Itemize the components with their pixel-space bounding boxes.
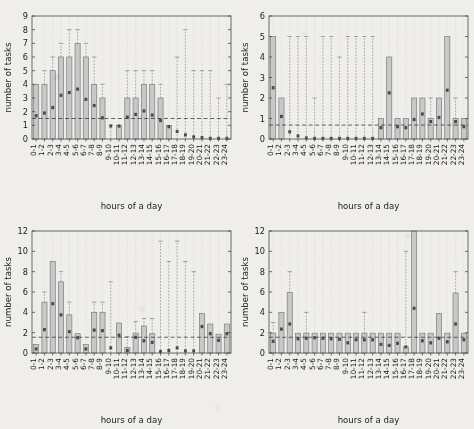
y-tick-label: 0: [260, 134, 265, 144]
x-axis-title: hours of a day: [338, 201, 400, 211]
chart-panel-top-right: 0123456number of tasks0-11-22-33-44-55-6…: [237, 0, 474, 215]
y-tick-label: 1: [260, 114, 265, 124]
y-tick-label: 3: [23, 93, 28, 103]
y-axis-title: number of tasks: [240, 42, 250, 112]
y-tick-label: 4: [260, 307, 265, 317]
x-tick-label: 23-24: [220, 358, 229, 380]
y-tick-label: 2: [260, 93, 265, 103]
y-tick-label: 5: [260, 32, 265, 42]
y-tick-label: 8: [260, 267, 265, 277]
y-tick-label: 0: [23, 134, 28, 144]
y-tick-label: 4: [23, 307, 28, 317]
y-tick-label: 4: [23, 79, 28, 89]
x-tick-label: 23-24: [457, 144, 466, 166]
chart-panel-bottom-left: 024681012number of tasks0-11-22-33-44-55…: [0, 215, 237, 429]
y-tick-label: 2: [23, 107, 28, 117]
y-tick-label: 8: [23, 267, 28, 277]
chart-panel-top-left: 0123456789number of tasks0-11-22-33-44-5…: [0, 0, 237, 215]
y-tick-label: 3: [260, 73, 265, 83]
y-tick-label: 8: [23, 25, 28, 35]
plot-area-panel-top-right: 0123456number of tasks0-11-22-33-44-55-6…: [237, 0, 474, 215]
y-tick-label: 2: [260, 328, 265, 338]
plot-area-panel-bottom-left: 024681012number of tasks0-11-22-33-44-55…: [0, 215, 237, 429]
y-axis-title: number of tasks: [3, 42, 13, 112]
y-tick-label: 10: [255, 246, 265, 256]
y-tick-label: 6: [23, 52, 28, 62]
x-tick-label: 23-24: [457, 358, 466, 380]
y-tick-label: 6: [23, 287, 28, 297]
y-tick-label: 7: [23, 38, 28, 48]
y-axis-title: number of tasks: [3, 257, 13, 327]
y-axis-title: number of tasks: [240, 257, 250, 327]
y-tick-label: 12: [18, 226, 28, 236]
y-tick-label: 0: [23, 348, 28, 358]
plot-area-panel-bottom-right: 024681012number of tasks0-11-22-33-44-55…: [237, 215, 474, 429]
y-tick-label: 6: [260, 11, 265, 21]
x-axis-title: hours of a day: [101, 415, 163, 425]
y-tick-label: 10: [18, 246, 28, 256]
chart-panel-bottom-right: 024681012number of tasks0-11-22-33-44-55…: [237, 215, 474, 429]
x-axis-title: hours of a day: [101, 201, 163, 211]
y-tick-label: 2: [23, 328, 28, 338]
y-tick-label: 9: [23, 11, 28, 21]
y-tick-label: 5: [23, 66, 28, 76]
y-tick-label: 0: [260, 348, 265, 358]
figure-grid: 0123456789number of tasks0-11-22-33-44-5…: [0, 0, 474, 429]
plot-area-panel-top-left: 0123456789number of tasks0-11-22-33-44-5…: [0, 0, 237, 215]
y-tick-label: 12: [255, 226, 265, 236]
x-tick-label: 23-24: [220, 144, 229, 166]
x-axis-title: hours of a day: [338, 415, 400, 425]
y-tick-label: 4: [260, 52, 265, 62]
y-tick-label: 6: [260, 287, 265, 297]
y-tick-label: 1: [23, 120, 28, 130]
